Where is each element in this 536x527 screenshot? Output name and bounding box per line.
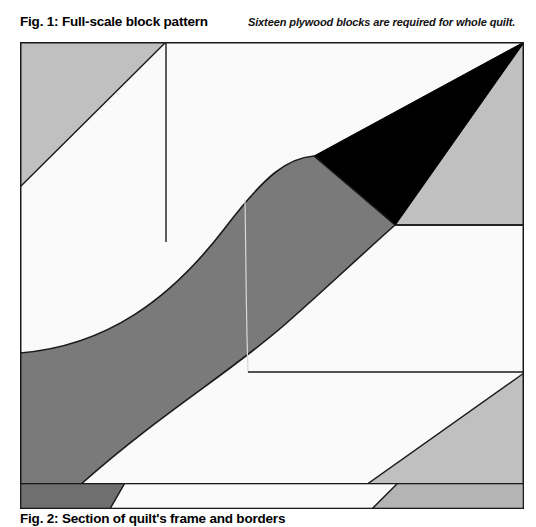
figure2-caption: Fig. 2: Section of quilt's frame and bor…: [20, 509, 524, 527]
full-scale-block-pattern-svg: [20, 42, 524, 485]
figure1-note: Sixteen plywood blocks are required for …: [248, 16, 515, 28]
frame-dark-gray-segment: [20, 483, 125, 509]
figure1-title: Fig. 1: Full-scale block pattern: [20, 14, 208, 29]
figure2-title: Fig. 2: Section of quilt's frame and bor…: [20, 511, 285, 526]
quilt-pattern-page: Fig. 1: Full-scale block pattern Sixteen…: [0, 0, 536, 527]
figure1-artwork: [20, 42, 524, 485]
figure2-artwork: [20, 483, 524, 509]
quilt-frame-section-svg: [20, 483, 524, 509]
frame-white-segment: [110, 483, 398, 509]
frame-light-gray-segment: [372, 483, 524, 509]
figure1-header: Fig. 1: Full-scale block pattern Sixteen…: [20, 14, 524, 36]
